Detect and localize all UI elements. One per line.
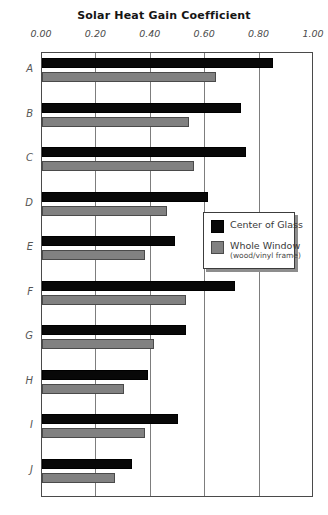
- y-tick-label-b: B: [0, 107, 33, 118]
- legend-sublabel-whole-window: (wood/vinyl frame): [230, 251, 301, 260]
- legend-swatch-whole-window: [211, 241, 224, 254]
- bar-e-series-2: [42, 250, 145, 260]
- y-tick-label-g: G: [0, 330, 33, 341]
- x-tick-label: 0.60: [194, 28, 215, 39]
- bar-b-series-1: [42, 103, 241, 113]
- bar-c-series-2: [42, 161, 194, 171]
- y-tick-label-j: J: [0, 463, 33, 474]
- bar-g-series-2: [42, 339, 154, 349]
- y-tick-label-f: F: [0, 285, 33, 296]
- bar-f-series-2: [42, 295, 186, 305]
- x-tick-label: 1.00: [302, 28, 323, 39]
- bar-i-series-2: [42, 428, 145, 438]
- bar-group: [42, 454, 312, 499]
- bar-group: [42, 142, 312, 187]
- bar-h-series-1: [42, 370, 148, 380]
- bar-group: [42, 53, 312, 98]
- x-tick-label: 0.80: [248, 28, 269, 39]
- chart-legend: Center of Glass Whole Window (wood/vinyl…: [203, 212, 295, 269]
- y-axis-category-labels: ABCDEFGHIJ: [0, 52, 41, 497]
- bar-i-series-1: [42, 414, 178, 424]
- y-tick-label-c: C: [0, 152, 33, 163]
- x-axis-tick-labels: 0.000.200.400.600.801.00: [0, 28, 328, 42]
- bar-a-series-1: [42, 58, 273, 68]
- bar-group: [42, 365, 312, 410]
- y-tick-label-i: I: [0, 419, 33, 430]
- bar-group: [42, 320, 312, 365]
- y-tick-label-e: E: [0, 241, 33, 252]
- bar-e-series-1: [42, 236, 175, 246]
- bar-d-series-1: [42, 192, 208, 202]
- bar-a-series-2: [42, 72, 216, 82]
- bar-group: [42, 276, 312, 321]
- bar-j-series-2: [42, 473, 115, 483]
- x-tick-label: 0.00: [30, 28, 51, 39]
- bar-f-series-1: [42, 281, 235, 291]
- bar-d-series-2: [42, 206, 167, 216]
- legend-label-whole-window: Whole Window: [230, 240, 300, 251]
- y-tick-label-d: D: [0, 196, 33, 207]
- bar-g-series-1: [42, 325, 186, 335]
- bar-j-series-1: [42, 459, 132, 469]
- bar-c-series-1: [42, 147, 246, 157]
- chart-title: Solar Heat Gain Coefficient: [0, 9, 328, 22]
- y-tick-label-h: H: [0, 374, 33, 385]
- x-tick-label: 0.20: [85, 28, 106, 39]
- legend-label-center-of-glass: Center of Glass: [230, 219, 303, 230]
- bar-b-series-2: [42, 117, 189, 127]
- bar-h-series-2: [42, 384, 124, 394]
- x-tick-label: 0.40: [139, 28, 160, 39]
- bar-group: [42, 409, 312, 454]
- plot-area: [41, 52, 313, 497]
- bar-group: [42, 98, 312, 143]
- chart-container: Solar Heat Gain Coefficient 0.000.200.40…: [0, 0, 328, 515]
- legend-swatch-center-of-glass: [211, 220, 224, 233]
- y-tick-label-a: A: [0, 63, 33, 74]
